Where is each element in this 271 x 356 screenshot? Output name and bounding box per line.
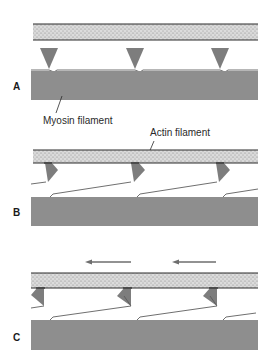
panel-a: A <box>13 24 258 100</box>
myosin-neck-c2 <box>137 306 217 320</box>
myosin-head-a1 <box>40 48 58 69</box>
head-lever <box>31 306 44 308</box>
panel-b: B <box>13 150 258 226</box>
actin-filament-label: Actin filament <box>150 127 210 138</box>
myosin-head-b3 <box>216 163 230 182</box>
myosin-neck-b1 <box>31 182 46 184</box>
myosin-neck-b3 <box>137 182 217 197</box>
left-arrow-icon <box>85 260 131 265</box>
myosin-filament-a <box>31 71 258 100</box>
actin-filament-c <box>31 273 258 288</box>
myosin-neck-c1 <box>50 306 131 320</box>
callouts: Myosin filament Actin filament <box>43 96 210 155</box>
myosin-filament-c <box>31 320 258 350</box>
left-arrow-icon <box>172 260 216 265</box>
myosin-neck-b4 <box>223 189 258 197</box>
sliding-filament-diagram: A Myosin filament Actin filament B <box>0 0 271 356</box>
panel-c: C <box>13 260 258 351</box>
panel-letter-c: C <box>13 332 20 343</box>
myosin-head-b1 <box>45 163 58 182</box>
myosin-head-b2 <box>131 163 145 182</box>
myosin-neck-b2 <box>50 182 131 197</box>
myosin-filament-label: Myosin filament <box>43 115 113 126</box>
panel-letter-b: B <box>13 207 20 218</box>
actin-filament-a <box>33 24 258 40</box>
myosin-head-a2 <box>126 48 144 69</box>
myosin-neck-c3 <box>223 313 256 320</box>
myosin-head-c1 <box>31 288 44 306</box>
myosin-filament-b <box>31 197 258 226</box>
panel-letter-a: A <box>13 81 20 92</box>
actin-filament-b <box>33 150 258 163</box>
myosin-head-a3 <box>211 48 229 69</box>
